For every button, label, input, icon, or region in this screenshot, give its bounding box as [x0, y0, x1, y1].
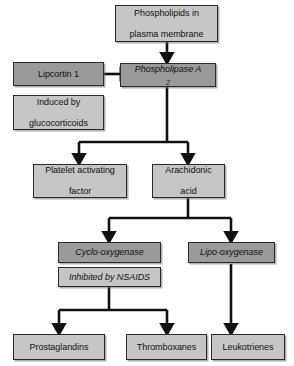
node-phospholipase-a2-label: Phospholipase A2 — [131, 64, 205, 86]
pathway-diagram: Phospholipids inplasma membrane Lipcorti… — [0, 0, 294, 366]
node-induced-by-glucocorticoids[interactable]: Induced byglucocorticoids — [13, 95, 104, 130]
node-lipo-oxygenase-label: Lipo-oxygenase — [198, 247, 265, 258]
node-leukotrienes-label: Leukotrienes — [221, 342, 276, 353]
node-phospholipids-label: Phospholipids inplasma membrane — [126, 8, 208, 40]
node-inhibited-by-nsaids-label: Inhibited by NSAIDS — [67, 272, 152, 283]
node-leukotrienes[interactable]: Leukotrienes — [211, 334, 285, 360]
node-prostaglandins[interactable]: Prostaglandins — [13, 334, 105, 360]
node-prostaglandins-label: Prostaglandins — [28, 342, 91, 353]
node-platelet-activating-factor[interactable]: Platelet activatingfactor — [33, 164, 127, 198]
node-arachidonic-acid[interactable]: Arachidonicacid — [152, 164, 225, 198]
node-induced-by-glucocorticoids-label: Induced byglucocorticoids — [25, 97, 92, 129]
node-lipcortin-1-label: Lipcortin 1 — [36, 69, 81, 80]
edge-cyclo-split — [59, 287, 167, 326]
node-lipo-oxygenase[interactable]: Lipo-oxygenase — [188, 242, 275, 263]
node-thromboxanes-label: Thromboxanes — [135, 342, 198, 353]
edge-lipcortin-inhibits-phospholipase — [104, 67, 121, 82]
node-platelet-activating-factor-label: Platelet activatingfactor — [41, 165, 119, 197]
node-arachidonic-acid-label: Arachidonicacid — [161, 165, 215, 197]
node-lipcortin-1[interactable]: Lipcortin 1 — [13, 62, 104, 86]
edge-arachidonic-split — [109, 198, 231, 234]
node-cyclo-oxygenase-label: Cyclo-oxygenase — [73, 247, 145, 258]
node-inhibited-by-nsaids[interactable]: Inhibited by NSAIDS — [58, 267, 161, 287]
node-thromboxanes[interactable]: Thromboxanes — [126, 334, 207, 360]
node-cyclo-oxygenase[interactable]: Cyclo-oxygenase — [58, 242, 161, 263]
node-phospholipase-a2[interactable]: Phospholipase A2 — [120, 63, 216, 87]
node-phospholipids[interactable]: Phospholipids inplasma membrane — [115, 5, 218, 42]
